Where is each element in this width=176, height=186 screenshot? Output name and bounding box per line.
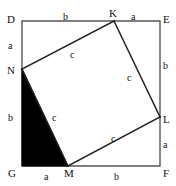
- vertex-marker-k: [113, 20, 115, 22]
- hypotenuse-label-top-left: c: [70, 50, 74, 60]
- vertex-label-f: F: [163, 168, 169, 179]
- side-label-bottom-b: b: [114, 172, 119, 182]
- vertex-label-l: L: [163, 114, 170, 125]
- side-label-top-a: a: [131, 12, 135, 22]
- side-label-top-b: b: [63, 12, 68, 22]
- vertex-label-m: M: [64, 168, 74, 179]
- vertex-label-n: N: [7, 65, 15, 76]
- side-label-left-a: a: [8, 41, 12, 51]
- vertex-marker-l: [159, 116, 161, 118]
- pythagoras-diagram: D E F G K L M N b a a b b a a b c c c c: [0, 0, 176, 186]
- diagram-canvas: [0, 0, 176, 186]
- side-label-right-b: b: [163, 61, 168, 71]
- side-label-bottom-a: a: [44, 172, 48, 182]
- vertex-marker-n: [21, 68, 23, 70]
- side-label-left-b: b: [8, 113, 13, 123]
- vertex-label-e: E: [163, 14, 170, 25]
- side-label-right-a: a: [163, 140, 167, 150]
- vertex-label-k: K: [109, 8, 117, 19]
- hypotenuse-label-bottom-right: c: [111, 134, 115, 144]
- vertex-label-g: G: [8, 168, 16, 179]
- hypotenuse-label-top-right: c: [127, 73, 131, 83]
- vertex-label-d: D: [7, 14, 15, 25]
- hypotenuse-label-bottom-left: c: [52, 113, 56, 123]
